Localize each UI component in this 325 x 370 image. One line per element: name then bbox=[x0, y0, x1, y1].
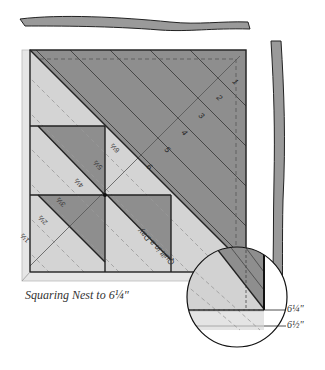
callout-6-1-2: 6½" bbox=[287, 319, 304, 330]
trimmed-strip-right bbox=[271, 41, 284, 300]
figure-caption: Squaring Nest to 6¼" bbox=[25, 288, 129, 303]
squaring-nest-diagram: 1 2 3 4 5 6 6½ 5½ 4½ 3½ 2½ 1½ Quilt in a… bbox=[0, 0, 325, 370]
trimmed-strip-top bbox=[20, 16, 250, 30]
callout-6-1-4: 6¼" bbox=[287, 303, 304, 314]
